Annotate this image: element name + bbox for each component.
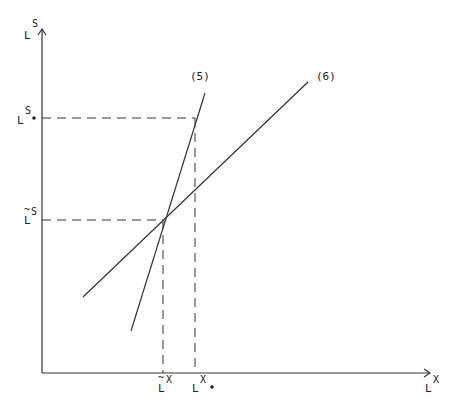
line-5 — [131, 93, 205, 331]
y-intersection-label-sup: S — [31, 206, 37, 217]
x-intersection-label-sup: X — [166, 374, 172, 385]
x-axis-label-sup: X — [433, 374, 439, 385]
x-intersection-label-base: L — [158, 382, 165, 395]
line-6-label: (6) — [316, 70, 336, 83]
line-6 — [83, 82, 308, 297]
y-upper-marker-icon — [32, 116, 36, 120]
y-intersection-label-base: L — [24, 214, 31, 227]
x-upper-label-base: L — [192, 382, 199, 395]
line-5-label: (5) — [190, 70, 210, 83]
y-upper-label-sup: S — [25, 105, 31, 116]
x-axis-label-base: L — [425, 382, 432, 395]
diagram: L S L X (5) (6) L S ~ L S ~ L X L X — [0, 0, 454, 407]
x-upper-marker-icon — [210, 385, 214, 389]
x-upper-label-sup: X — [200, 374, 206, 385]
diagram-canvas: L S L X (5) (6) L S ~ L S ~ L X L X — [0, 0, 454, 407]
y-axis-label-base: L — [24, 29, 31, 42]
y-axis-label-sup: S — [32, 18, 38, 29]
y-upper-label-base: L — [17, 114, 24, 127]
